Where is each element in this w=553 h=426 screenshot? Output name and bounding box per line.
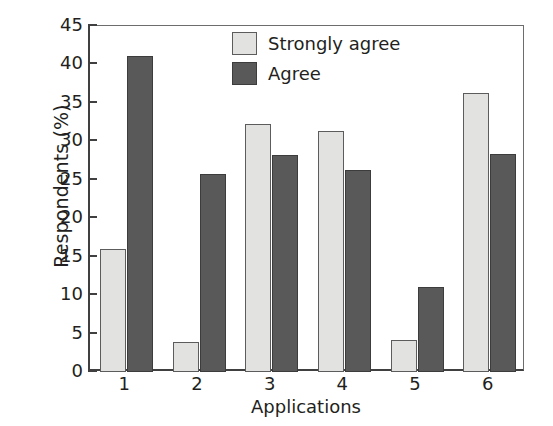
- bar-agree-6: [490, 154, 516, 372]
- x-axis-tick-label: 3: [240, 373, 300, 394]
- bar-agree-3: [272, 155, 298, 372]
- y-axis-tick-label: 20: [60, 208, 88, 226]
- bar-agree-4: [345, 170, 371, 372]
- legend-label-strongly-agree: Strongly agree: [268, 33, 400, 54]
- x-axis-tick-label: 5: [385, 373, 445, 394]
- y-axis-tick-label: 40: [60, 54, 88, 72]
- legend-label-agree: Agree: [268, 63, 321, 84]
- y-axis-tick-mark: [88, 24, 97, 26]
- y-axis-tick-label: 45: [60, 16, 88, 34]
- y-axis-tick-mark: [88, 101, 97, 103]
- bar-agree-5: [418, 287, 444, 372]
- bar-strongly-agree-6: [463, 93, 489, 372]
- bar-agree-1: [127, 56, 153, 372]
- legend-swatch-agree: [232, 62, 257, 85]
- y-axis-tick-label: 15: [60, 247, 88, 265]
- y-axis-tick-mark: [88, 139, 97, 141]
- y-axis-tick-label: 35: [60, 93, 88, 111]
- y-axis-tick-label: 5: [72, 324, 88, 342]
- x-axis-tick-label: 2: [167, 373, 227, 394]
- y-axis-tick-mark: [88, 62, 97, 64]
- legend-item: Strongly agree: [232, 28, 400, 58]
- bar-strongly-agree-5: [391, 340, 417, 372]
- bar-strongly-agree-1: [100, 249, 126, 372]
- x-axis-tick-label: 4: [312, 373, 372, 394]
- bar-strongly-agree-3: [245, 124, 271, 372]
- y-axis-tick-label: 30: [60, 131, 88, 149]
- y-axis-tick-mark: [88, 178, 97, 180]
- legend-swatch-strongly-agree: [232, 32, 257, 55]
- y-axis-tick-mark: [88, 293, 97, 295]
- y-axis-tick-label: 0: [72, 362, 88, 380]
- bar-agree-2: [200, 174, 226, 372]
- y-axis-tick-mark: [88, 255, 97, 257]
- bar-strongly-agree-2: [173, 342, 199, 372]
- x-axis-tick-label: 6: [458, 373, 518, 394]
- y-axis-tick-label: 10: [60, 285, 88, 303]
- legend-item: Agree: [232, 58, 400, 88]
- y-axis-tick-label: 25: [60, 170, 88, 188]
- x-axis-tick-label: 1: [94, 373, 154, 394]
- bar-chart: Respondents (%) 051015202530354045 12345…: [0, 0, 553, 426]
- x-axis-title: Applications: [88, 396, 524, 417]
- bar-strongly-agree-4: [318, 131, 344, 372]
- y-axis-tick-mark: [88, 216, 97, 218]
- y-axis-tick-mark: [88, 332, 97, 334]
- legend: Strongly agree Agree: [232, 28, 400, 88]
- y-axis-tick-mark: [88, 370, 97, 372]
